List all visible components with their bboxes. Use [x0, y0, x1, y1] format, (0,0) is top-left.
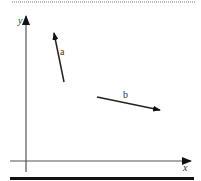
vector-b-label: b: [123, 89, 128, 100]
vector-a-arrow: [54, 33, 64, 82]
vector-diagram: y x a b: [0, 0, 201, 181]
vector-a-label: a: [60, 46, 65, 57]
vector-b-arrow: [97, 97, 160, 110]
x-axis-label: x: [182, 162, 188, 173]
bottom-rule: [10, 177, 194, 180]
y-axis-label: y: [17, 15, 23, 26]
